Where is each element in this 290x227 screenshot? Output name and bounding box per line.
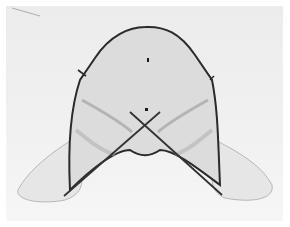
upper-center-dot xyxy=(147,58,149,62)
specimen-drawing xyxy=(0,0,290,227)
lower-center-dot xyxy=(145,108,148,111)
scratch-mark xyxy=(12,8,40,16)
central-body xyxy=(69,27,220,190)
right-wing xyxy=(212,140,272,200)
